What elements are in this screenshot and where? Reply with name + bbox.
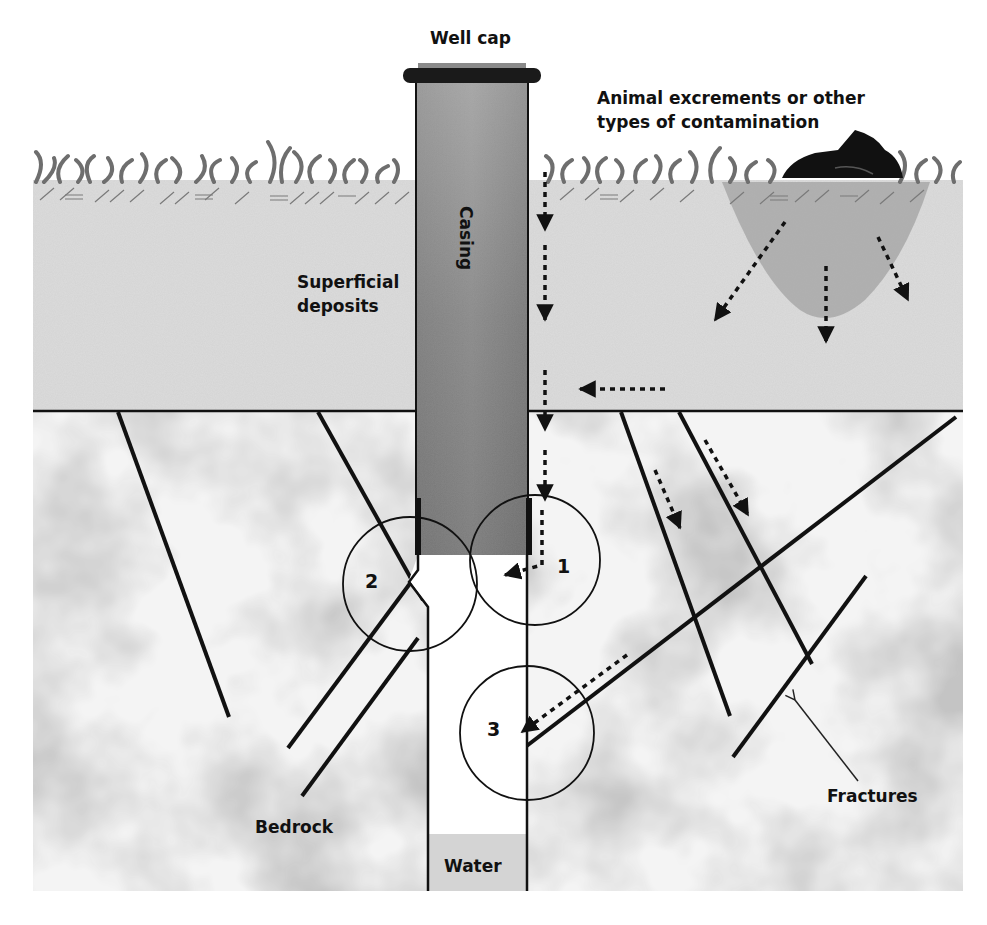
- well-casing: [415, 80, 532, 555]
- pathway-number-1: 1: [557, 555, 570, 577]
- water-label: Water: [444, 856, 502, 876]
- contamination-label-line1: Animal excrements or other: [597, 88, 865, 108]
- pathway-number-3: 3: [487, 718, 500, 740]
- casing-grout-right: [526, 498, 532, 555]
- bedrock-label: Bedrock: [255, 817, 333, 837]
- fractures-label: Fractures: [827, 786, 918, 806]
- well-cap: [403, 63, 541, 83]
- animal-excrement-icon: [782, 130, 903, 178]
- contamination-label-line2: types of contamination: [597, 112, 819, 132]
- pathway-number-2: 2: [365, 570, 378, 592]
- casing-grout-left: [415, 498, 421, 555]
- well-contamination-diagram: Well cap Casing Animal excrements or oth…: [0, 0, 987, 925]
- well-cap-label: Well cap: [430, 28, 511, 48]
- superficial-deposits-label-line1: Superficial: [297, 272, 399, 292]
- casing-label: Casing: [456, 206, 476, 270]
- superficial-deposits-label-line2: deposits: [297, 296, 379, 316]
